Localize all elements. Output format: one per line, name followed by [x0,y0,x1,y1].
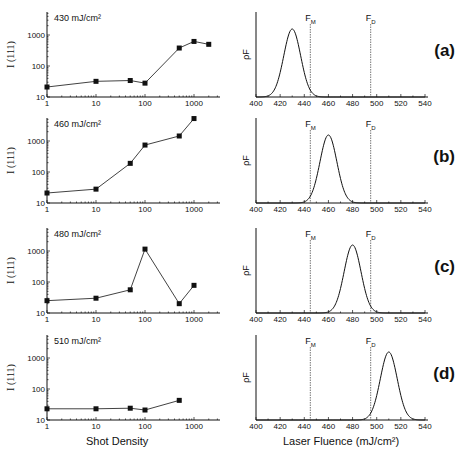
data-marker [177,301,182,306]
x-tick-label: 420 [273,205,287,214]
data-marker [143,408,148,413]
y-axis-title: I (111) [5,147,17,174]
x-tick-label: 1000 [185,99,203,108]
y-tick-label: 1000 [27,354,45,363]
x-title-left: Shot Density [86,435,148,447]
data-line [47,249,194,304]
data-marker [177,398,182,403]
x-tick-label: 100 [138,315,152,324]
x-tick-label: 520 [394,99,408,108]
fluence-annotation: 480 mJ/cm² [54,229,101,239]
data-marker [128,161,133,166]
fluence-annotation: 510 mJ/cm² [54,336,101,346]
data-marker [94,79,99,84]
y-tick-label: 100 [32,62,46,71]
data-marker [192,283,197,288]
data-marker [143,143,148,148]
panel-label: (d) [433,364,455,383]
x-tick-label: 460 [322,422,336,431]
y-tick-label: 100 [32,168,46,177]
gaussian-curve [256,352,425,420]
y-axis-title: ρF [241,265,251,276]
y-axis-title: I (111) [5,41,17,68]
data-marker [192,116,197,121]
fd-label: FD [366,13,377,25]
data-marker [177,133,182,138]
x-tick-label: 540 [418,422,432,431]
fd-label: FD [366,336,377,348]
data-marker [94,406,99,411]
figure: 1101001000101001000I (111)430 mJ/cm²4004… [0,0,459,457]
x-tick-label: 400 [249,99,263,108]
fm-label: FM [305,13,316,25]
x-tick-label: 520 [394,205,408,214]
x-tick-label: 480 [346,315,360,324]
x-tick-label: 520 [394,422,408,431]
fm-label: FM [305,336,316,348]
fluence-annotation: 430 mJ/cm² [54,13,101,23]
y-axis-title: I (111) [5,364,17,391]
x-tick-label: 440 [298,315,312,324]
x-tick-label: 1 [45,422,50,431]
data-marker [128,287,133,292]
y-axis-title: ρF [241,372,251,383]
data-marker [128,78,133,83]
gaussian-curve [256,245,425,313]
x-tick-label: 500 [370,99,384,108]
y-tick-label: 10 [36,309,45,318]
panel-label: (c) [434,257,455,276]
y-tick-label: 1000 [27,247,45,256]
y-tick-label: 1000 [27,31,45,40]
x-tick-label: 1000 [185,315,203,324]
x-tick-label: 100 [138,99,152,108]
x-tick-label: 400 [249,315,263,324]
x-tick-label: 460 [322,205,336,214]
gaussian-curve [256,29,425,97]
data-marker [192,39,197,44]
data-marker [206,42,211,47]
y-tick-label: 1000 [27,137,45,146]
x-tick-label: 540 [418,315,432,324]
y-axis-title: I (111) [5,257,17,284]
x-tick-label: 1000 [185,205,203,214]
x-title-right: Laser Fluence (mJ/cm²) [283,435,399,447]
x-tick-label: 420 [273,315,287,324]
data-marker [45,191,50,196]
y-tick-label: 10 [36,93,45,102]
x-tick-label: 500 [370,422,384,431]
panel-label: (b) [433,147,455,166]
data-marker [94,187,99,192]
data-line [47,119,194,193]
panel-label: (a) [434,41,455,60]
x-tick-label: 1 [45,205,50,214]
x-tick-label: 400 [249,422,263,431]
y-tick-label: 10 [36,199,45,208]
data-marker [143,81,148,86]
x-tick-label: 440 [298,422,312,431]
data-marker [177,46,182,51]
x-tick-label: 500 [370,315,384,324]
x-tick-label: 100 [138,205,152,214]
data-marker [94,296,99,301]
x-tick-label: 480 [346,422,360,431]
x-tick-label: 1000 [185,422,203,431]
x-tick-label: 10 [92,99,101,108]
x-tick-label: 1 [45,315,50,324]
x-tick-label: 480 [346,99,360,108]
x-tick-label: 500 [370,205,384,214]
x-tick-label: 540 [418,205,432,214]
x-tick-label: 1 [45,99,50,108]
x-tick-label: 520 [394,315,408,324]
x-tick-label: 440 [298,205,312,214]
data-marker [45,298,50,303]
y-tick-label: 100 [32,278,46,287]
x-tick-label: 460 [322,315,336,324]
y-tick-label: 100 [32,385,46,394]
fm-label: FM [305,229,316,241]
y-tick-label: 10 [36,416,45,425]
data-marker [45,406,50,411]
y-axis-title: ρF [241,49,251,60]
data-marker [128,406,133,411]
x-tick-label: 540 [418,99,432,108]
x-tick-label: 10 [92,422,101,431]
